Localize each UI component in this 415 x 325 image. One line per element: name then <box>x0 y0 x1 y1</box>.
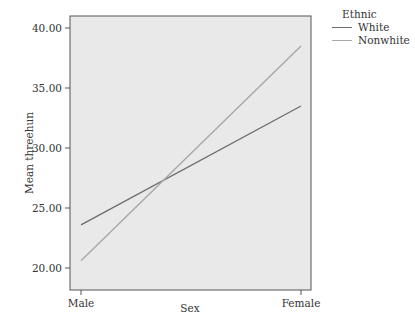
legend-swatch-nonwhite <box>332 40 352 41</box>
y-tick-label: 20.00 <box>32 262 62 274</box>
x-tick-label: Male <box>68 297 95 309</box>
y-axis: 20.0025.0030.0035.0040.00 <box>32 22 70 274</box>
y-tick-label: 35.00 <box>32 82 62 94</box>
line-chart: 20.0025.0030.0035.0040.00 MaleFemale Sex… <box>0 0 415 325</box>
legend-label-nonwhite: Nonwhite <box>358 34 410 47</box>
y-tick-label: 40.00 <box>32 22 62 34</box>
y-tick-label: 30.00 <box>32 142 62 154</box>
legend-item-white: White <box>332 21 410 34</box>
legend: Ethnic White Nonwhite <box>332 8 410 47</box>
legend-label-white: White <box>358 21 389 34</box>
legend-item-nonwhite: Nonwhite <box>332 34 410 47</box>
legend-swatch-white <box>332 27 352 28</box>
legend-title: Ethnic <box>342 8 410 21</box>
x-axis-title: Sex <box>180 302 199 314</box>
y-axis-title: Mean threehun <box>23 112 35 194</box>
y-tick-label: 25.00 <box>32 202 62 214</box>
x-tick-label: Female <box>282 297 321 309</box>
